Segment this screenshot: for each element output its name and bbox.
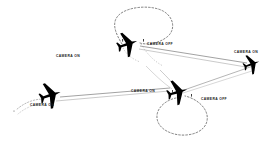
turn-point-markers	[122, 39, 192, 97]
flight-path-diagram: CAMERA ON CAMERA OFF CAMERA ON CAMERA OF…	[0, 0, 269, 144]
aircraft-right	[240, 52, 262, 76]
aircraft-lower-center	[164, 77, 191, 107]
annotation-camera-on-right: CAMERA ON	[234, 51, 258, 54]
lower-loop-path	[157, 96, 207, 135]
annotation-camera-on-lower: CAMERA ON	[131, 90, 155, 93]
annotation-camera-on-left: CAMERA ON	[30, 104, 54, 107]
annotation-camera-off-upper: CAMERA OFF	[147, 43, 173, 46]
annotation-camera-on-upper: CAMERA ON	[56, 55, 80, 58]
aircraft-upper-center	[114, 29, 141, 59]
flight-path-canvas	[0, 0, 269, 144]
annotation-camera-off-lower: CAMERA OFF	[201, 98, 227, 101]
